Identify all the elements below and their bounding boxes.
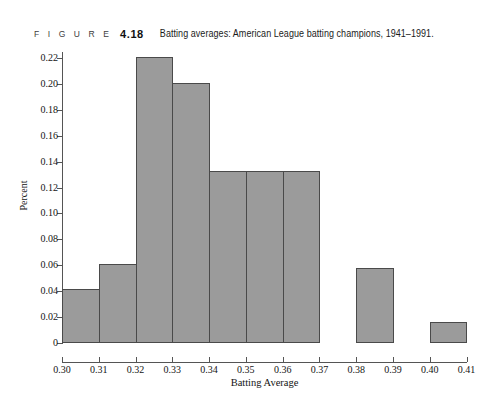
y-tick-label: 0.06 xyxy=(10,260,58,270)
figure-root: F I G U R E 4.18 Batting averages: Ameri… xyxy=(0,0,504,407)
x-tick-label: 0.38 xyxy=(336,364,376,375)
x-tick-mark xyxy=(283,357,284,362)
histogram-bar xyxy=(209,171,247,343)
x-tick-mark xyxy=(246,357,247,362)
x-tick-mark xyxy=(393,357,394,362)
y-tick-label: 0 xyxy=(10,338,58,348)
x-tick-label: 0.30 xyxy=(42,364,82,375)
y-tick-label-wrap: 0.20 xyxy=(6,79,58,89)
x-axis-title: Batting Average xyxy=(62,377,467,388)
x-tick-mark xyxy=(136,357,137,362)
y-tick-label-wrap: 0.08 xyxy=(6,234,58,244)
y-tick-label-wrap: 0 xyxy=(6,338,58,348)
histogram-bar xyxy=(172,83,210,343)
y-axis-title: Percent xyxy=(18,161,29,231)
y-tick-label: 0.16 xyxy=(10,131,58,141)
y-tick-label-wrap: 0.12 xyxy=(6,183,58,193)
y-tick-label-wrap: 0.02 xyxy=(6,312,58,322)
histogram-bar xyxy=(430,322,468,343)
y-tick-label: 0.22 xyxy=(10,53,58,63)
histogram-bar xyxy=(283,171,321,343)
x-tick-mark xyxy=(319,357,320,362)
x-tick-label: 0.40 xyxy=(410,364,450,375)
x-tick-mark xyxy=(356,357,357,362)
x-tick-label: 0.31 xyxy=(79,364,119,375)
y-tick-label-wrap: 0.14 xyxy=(6,157,58,167)
x-tick-mark xyxy=(99,357,100,362)
x-tick-label: 0.34 xyxy=(189,364,229,375)
x-tick-mark xyxy=(172,357,173,362)
x-tick-mark xyxy=(62,357,63,362)
x-tick-mark xyxy=(467,357,468,362)
x-tick-label: 0.35 xyxy=(226,364,266,375)
histogram-plot: 00.020.040.060.080.100.120.140.160.180.2… xyxy=(0,0,504,407)
y-tick-label: 0.02 xyxy=(10,312,58,322)
histogram-bar xyxy=(356,268,394,343)
histogram-bar xyxy=(136,57,174,343)
x-tick-label: 0.39 xyxy=(373,364,413,375)
x-tick-label: 0.37 xyxy=(299,364,339,375)
histogram-bar xyxy=(99,264,137,343)
x-tick-label: 0.33 xyxy=(152,364,192,375)
x-tick-label: 0.36 xyxy=(263,364,303,375)
histogram-bar xyxy=(246,171,284,343)
x-tick-mark xyxy=(430,357,431,362)
x-tick-label: 0.41 xyxy=(447,364,487,375)
y-tick-label-wrap: 0.18 xyxy=(6,105,58,115)
y-tick-label: 0.08 xyxy=(10,234,58,244)
y-tick-label: 0.18 xyxy=(10,105,58,115)
y-tick-label-wrap: 0.04 xyxy=(6,286,58,296)
y-tick-label: 0.20 xyxy=(10,79,58,89)
y-tick-label-wrap: 0.10 xyxy=(6,208,58,218)
x-tick-mark xyxy=(209,357,210,362)
histogram-bar xyxy=(62,289,100,343)
y-tick-label: 0.04 xyxy=(10,286,58,296)
x-axis-line xyxy=(62,362,467,363)
x-tick-label: 0.32 xyxy=(116,364,156,375)
y-tick-label-wrap: 0.06 xyxy=(6,260,58,270)
y-tick-label-wrap: 0.16 xyxy=(6,131,58,141)
y-tick-label-wrap: 0.22 xyxy=(6,53,58,63)
